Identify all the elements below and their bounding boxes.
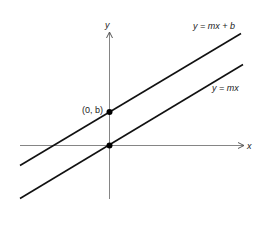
point-intercept-b: [107, 109, 113, 115]
point-origin: [107, 143, 113, 149]
x-axis-label: x: [246, 141, 252, 151]
label-point-0-b: (0, b): [82, 105, 103, 115]
line-intercept-diagram: x y y = mx + b y = mx (0, b): [0, 0, 262, 226]
label-y-mx-plus-b: y = mx + b: [192, 21, 235, 31]
y-axis-label: y: [104, 20, 110, 30]
label-y-mx: y = mx: [211, 83, 239, 93]
line-y-mx: [20, 65, 243, 199]
